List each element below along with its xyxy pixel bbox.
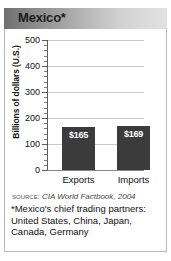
y-minor-tick — [44, 149, 47, 150]
x-tick-label-exports: Exports — [51, 174, 106, 185]
y-tick-label-400: 400 — [25, 61, 40, 71]
y-minor-tick — [44, 165, 47, 166]
bar-value-imports: $169 — [117, 129, 150, 139]
source-value: CIA World Factbook, 2004 — [42, 192, 136, 201]
y-tick-mark-0 — [42, 170, 47, 171]
y-minor-tick — [44, 108, 47, 109]
y-axis-title: Billions of dollars (U.S.) — [11, 31, 21, 153]
y-minor-tick — [44, 123, 47, 124]
footnote-text: *Mexico's chief trading partners: United… — [11, 203, 163, 238]
source-label: Source: — [12, 192, 40, 201]
y-tick-mark-100 — [42, 144, 47, 145]
gridline-500 — [47, 40, 144, 41]
y-minor-tick — [44, 128, 47, 129]
y-minor-tick — [44, 87, 47, 88]
gridline-400 — [47, 66, 144, 67]
x-tick-label-imports: Imports — [106, 174, 161, 185]
y-minor-tick — [44, 97, 47, 98]
bar-imports[interactable]: $169 — [117, 126, 150, 170]
chart-figure: Mexico* Billions of dollars (U.S.) 500 — [0, 0, 171, 261]
bar-value-exports: $165 — [62, 130, 95, 140]
y-minor-tick — [44, 160, 47, 161]
y-minor-tick — [44, 45, 47, 46]
y-minor-tick — [44, 139, 47, 140]
y-tick-mark-400 — [42, 66, 47, 67]
y-minor-tick — [44, 61, 47, 62]
y-minor-tick — [44, 102, 47, 103]
gridline-200 — [47, 118, 144, 119]
y-tick-mark-500 — [42, 40, 47, 41]
chart-header-band: Mexico* — [4, 8, 167, 29]
y-tick-label-100: 100 — [25, 139, 40, 149]
y-minor-tick — [44, 50, 47, 51]
gridline-300 — [47, 92, 144, 93]
y-minor-tick — [44, 71, 47, 72]
y-tick-label-300: 300 — [25, 87, 40, 97]
y-minor-tick — [44, 76, 47, 77]
bar-exports[interactable]: $165 — [62, 127, 95, 170]
chart-panel: Billions of dollars (U.S.) 500 400 — [4, 29, 167, 252]
y-tick-mark-300 — [42, 92, 47, 93]
plot-area: 500 400 300 200 100 — [47, 40, 144, 170]
source-line: Source: CIA World Factbook, 2004 — [12, 192, 136, 201]
y-tick-label-0: 0 — [35, 165, 40, 175]
y-tick-mark-200 — [42, 118, 47, 119]
y-minor-tick — [44, 56, 47, 57]
x-axis-line — [47, 170, 144, 171]
y-minor-tick — [44, 82, 47, 83]
y-minor-tick — [44, 154, 47, 155]
chart-title: Mexico* — [18, 10, 66, 25]
bar-chart: Billions of dollars (U.S.) 500 400 — [5, 29, 168, 189]
y-axis-line — [47, 40, 48, 171]
y-minor-tick — [44, 134, 47, 135]
y-tick-label-200: 200 — [25, 113, 40, 123]
y-minor-tick — [44, 113, 47, 114]
y-tick-label-500: 500 — [25, 35, 40, 45]
